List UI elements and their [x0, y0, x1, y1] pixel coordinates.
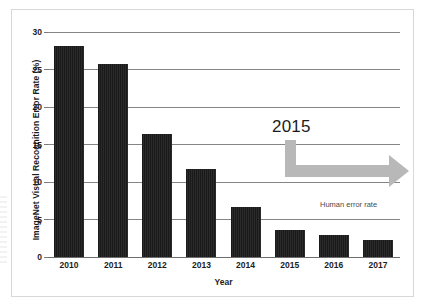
y-tick-mark [44, 144, 48, 145]
x-tick-label: 2011 [91, 261, 135, 270]
x-tick-label: 2016 [312, 261, 356, 270]
y-tick-mark [44, 69, 48, 70]
y-tick-label: 5 [20, 216, 42, 225]
x-tick-label: 2014 [224, 261, 268, 270]
x-tick-label: 2010 [47, 261, 91, 270]
y-tick-mark [44, 257, 48, 258]
bar [275, 230, 305, 257]
bar [231, 207, 261, 257]
y-tick: 0 [20, 257, 42, 258]
human-error-rate-label: Human error rate [320, 200, 377, 209]
x-tick-label: 2015 [268, 261, 312, 270]
x-axis-title: Year [47, 277, 400, 287]
y-tick: 20 [20, 107, 42, 108]
bar [319, 235, 349, 258]
gridline [47, 32, 400, 33]
x-tick-label: 2012 [135, 261, 179, 270]
y-tick: 30 [20, 32, 42, 33]
y-tick-label: 30 [20, 28, 42, 37]
bar [98, 64, 128, 257]
x-tick-label: 2013 [179, 261, 223, 270]
y-tick: 15 [20, 145, 42, 146]
y-tick: 10 [20, 182, 42, 183]
y-tick: 5 [20, 220, 42, 221]
bar-chart: ImageNet Visual Recognition Error Rate (… [0, 0, 425, 308]
year-2015-callout: 2015 [272, 118, 311, 135]
y-tick-mark [44, 219, 48, 220]
x-tick-label: 2017 [356, 261, 400, 270]
trend-arrow-icon [285, 140, 409, 188]
bar [186, 169, 216, 257]
y-tick-label: 0 [20, 253, 42, 262]
bar [142, 134, 172, 257]
bar [363, 240, 393, 257]
y-tick-mark [44, 32, 48, 33]
y-tick-label: 25 [20, 66, 42, 75]
figure-page: ImageNet Visual Recognition Error Rate (… [0, 0, 425, 308]
y-tick: 25 [20, 70, 42, 71]
y-tick-mark [44, 182, 48, 183]
y-tick-label: 15 [20, 141, 42, 150]
bar [54, 46, 84, 258]
y-tick-label: 20 [20, 103, 42, 112]
y-tick-label: 10 [20, 178, 42, 187]
y-tick-mark [44, 107, 48, 108]
